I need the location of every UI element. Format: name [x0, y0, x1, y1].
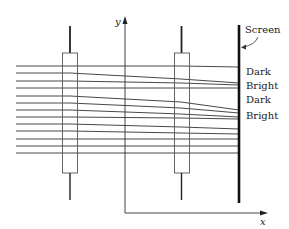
ray-7 — [16, 110, 239, 117]
fringe-labels: Dark Bright Dark Bright — [246, 66, 278, 121]
grating-1 — [63, 26, 78, 200]
y-axis-arrow-icon — [123, 16, 128, 24]
ray-2 — [16, 73, 239, 83]
grating-2-box — [175, 53, 190, 173]
ray-3 — [16, 81, 239, 85]
ray-6 — [16, 103, 239, 113]
ray-9 — [16, 124, 239, 129]
fringe-label-dark-2: Dark — [246, 94, 272, 105]
ray-8 — [16, 117, 239, 119]
y-axis-label: y — [114, 16, 121, 27]
interferometer-diagram: y x Screen Dark Bright Dark Bright — [0, 0, 289, 229]
screen-pointer-arrowhead-icon — [241, 45, 246, 50]
fringe-label-bright-2: Bright — [246, 110, 278, 121]
x-axis-arrow-icon — [260, 211, 268, 216]
fringe-label-dark-1: Dark — [246, 66, 272, 77]
fringe-label-bright-1: Bright — [246, 80, 278, 91]
atom-beam-rays — [16, 66, 239, 153]
grating-2 — [175, 26, 190, 200]
screen-label: Screen — [245, 24, 281, 35]
ray-10 — [16, 131, 239, 134]
ray-1 — [16, 66, 239, 67]
grating-1-box — [63, 53, 78, 173]
x-axis-label: x — [260, 216, 266, 227]
